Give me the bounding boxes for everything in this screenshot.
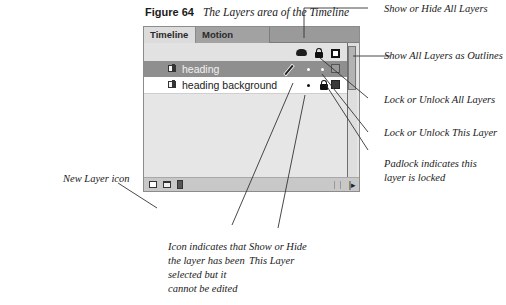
timeline-panel: Timeline Motion Editor heading heading b…: [143, 26, 360, 192]
label-show-hide-this-line2: This Layer: [249, 254, 307, 268]
lock-dot-icon[interactable]: [321, 68, 324, 71]
tab-motion-editor[interactable]: Motion Editor: [196, 27, 270, 43]
label-outlines-all: Show All Layers as Outlines: [384, 49, 503, 63]
layer-icon: [168, 65, 176, 72]
label-show-hide-this: Show or Hide This Layer: [249, 240, 307, 268]
layer-row-heading[interactable]: heading: [144, 61, 348, 77]
layer-outline-icon[interactable]: [331, 64, 340, 73]
scrollbar-thumb[interactable]: [348, 46, 356, 90]
label-padlock-line2: layer is locked: [384, 171, 477, 185]
label-pencil-icon: Icon indicates that the layer has been s…: [168, 240, 246, 296]
figure-caption: Figure 64 The Layers area of the Timelin…: [145, 6, 349, 18]
label-lock-this: Lock or Unlock This Layer: [384, 126, 497, 140]
layer-outline-icon[interactable]: [331, 80, 340, 89]
label-show-hide-all: Show or Hide All Layers: [384, 2, 488, 16]
lock-all-icon[interactable]: [315, 52, 323, 58]
scroll-end-icon[interactable]: |▸: [349, 180, 356, 190]
label-padlock: Padlock indicates this layer is locked: [384, 157, 477, 185]
figure-title: The Layers area of the Timeline: [203, 6, 349, 18]
visibility-dot-icon[interactable]: [307, 84, 310, 87]
label-show-hide-this-line1: Show or Hide: [249, 240, 307, 254]
label-new-layer: New Layer icon: [63, 172, 130, 186]
layer-name: heading background: [182, 77, 277, 93]
resize-grip-icon[interactable]: [334, 181, 341, 189]
layer-row-heading-background[interactable]: heading background: [144, 77, 348, 94]
label-padlock-line1: Padlock indicates this: [384, 157, 477, 171]
layer-icon: [168, 81, 176, 88]
new-layer-icon[interactable]: [149, 181, 157, 188]
tab-bar: Timeline Motion Editor: [144, 27, 359, 43]
label-pencil-line2: the layer has been: [168, 254, 246, 268]
padlock-icon[interactable]: [320, 84, 328, 90]
layers-toolbar: |▸: [144, 177, 359, 191]
tab-timeline[interactable]: Timeline: [144, 27, 196, 43]
visibility-dot-icon[interactable]: [307, 68, 310, 71]
show-hide-all-eye-icon[interactable]: [296, 49, 307, 56]
label-pencil-line3: selected but it: [168, 268, 246, 282]
layer-name: heading: [182, 61, 219, 77]
pencil-crossed-icon: [283, 63, 295, 76]
outline-all-icon[interactable]: [331, 49, 340, 58]
label-pencil-line4: cannot be edited: [168, 282, 246, 296]
delete-layer-icon[interactable]: [177, 180, 183, 189]
vertical-scrollbar[interactable]: [347, 43, 357, 177]
label-pencil-line1: Icon indicates that: [168, 240, 246, 254]
layers-header-row: [144, 43, 359, 61]
figure-number: Figure 64: [145, 6, 194, 18]
label-lock-all: Lock or Unlock All Layers: [384, 93, 495, 107]
new-folder-icon[interactable]: [163, 181, 171, 188]
